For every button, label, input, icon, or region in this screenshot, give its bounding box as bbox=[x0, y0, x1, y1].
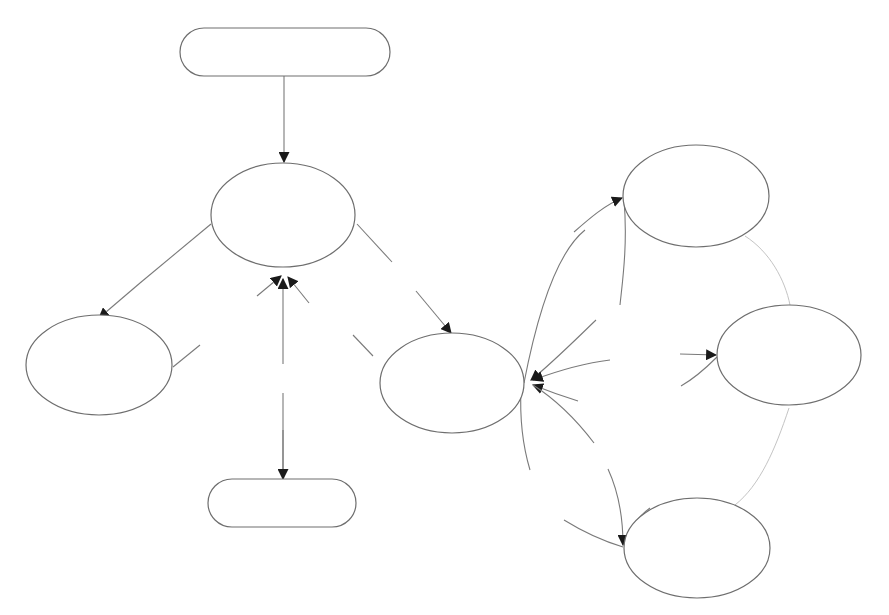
edge-hub-to-right-bottom-curve bbox=[608, 469, 623, 545]
nodes bbox=[26, 28, 861, 598]
edge-central-to-hub bbox=[357, 224, 392, 262]
edge-faint-right-mid-to-right-bottom bbox=[735, 408, 789, 505]
edge-left-to-central-tip bbox=[257, 276, 281, 296]
node-start-terminal bbox=[180, 28, 390, 76]
edge-left-to-central bbox=[173, 345, 200, 367]
edge-right-bottom-to-hub bbox=[533, 385, 578, 401]
edge-right-top-to-hub bbox=[620, 200, 625, 305]
edge-hub-to-right-top-tip bbox=[574, 198, 622, 232]
flow-diagram bbox=[0, 0, 889, 615]
edge-central-to-left-tip bbox=[99, 283, 140, 318]
edge-faint-right-top-to-right-mid bbox=[745, 236, 790, 305]
edge-right-bottom-to-hub-long bbox=[533, 385, 594, 443]
node-right-bottom bbox=[624, 498, 770, 598]
edge-hub-to-right-mid bbox=[680, 354, 716, 355]
edge-central-to-hub-tip bbox=[416, 291, 451, 333]
edge-hub-to-right-bottom bbox=[521, 388, 530, 470]
node-central bbox=[211, 163, 355, 267]
node-left bbox=[26, 315, 172, 415]
node-right-mid bbox=[717, 305, 861, 405]
edge-right-mid-to-hub bbox=[533, 360, 610, 380]
edge-hub-to-central bbox=[288, 277, 309, 303]
edge-hub-to-right-mid-curve bbox=[681, 357, 717, 386]
edge-hub-to-central-tail bbox=[353, 335, 373, 356]
edge-hub-to-right-bottom-tail bbox=[564, 520, 623, 547]
edge-right-top-to-hub-tip bbox=[531, 320, 596, 380]
node-hub bbox=[380, 333, 524, 433]
node-right-top bbox=[623, 145, 769, 247]
node-end-terminal bbox=[208, 479, 356, 527]
edge-central-to-left bbox=[140, 224, 211, 283]
